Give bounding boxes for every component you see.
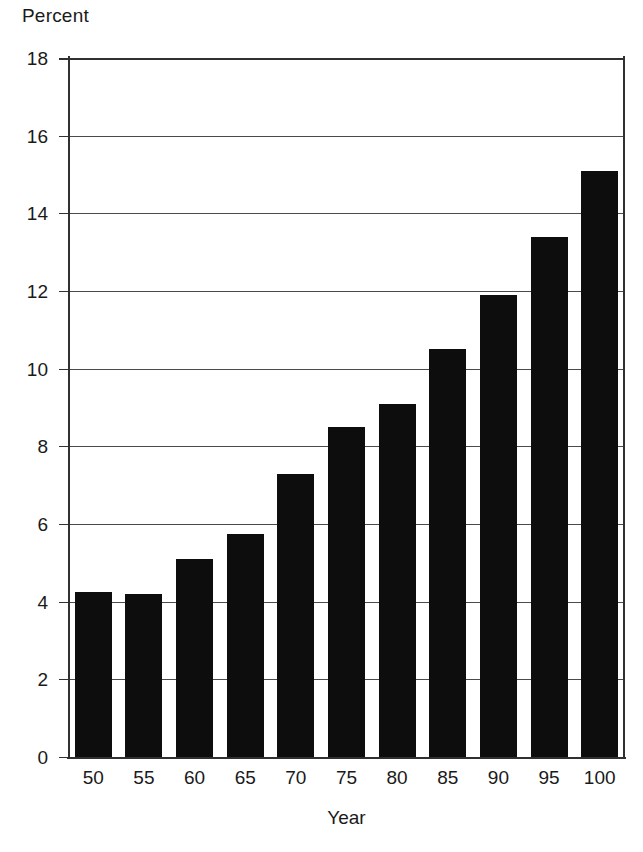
y-axis-tick-label: 18 bbox=[2, 49, 48, 68]
bar bbox=[75, 592, 112, 757]
gridline bbox=[68, 213, 625, 214]
x-axis-tick-label: 75 bbox=[321, 766, 372, 790]
y-axis-tick-label: 4 bbox=[2, 593, 48, 612]
bar bbox=[429, 349, 466, 757]
y-axis-tick bbox=[59, 524, 68, 525]
y-axis-tick-label: 14 bbox=[2, 204, 48, 223]
x-axis-tick-label: 50 bbox=[68, 766, 119, 790]
y-axis-tick-label: 2 bbox=[2, 670, 48, 689]
y-axis-tick-label: 10 bbox=[2, 360, 48, 379]
bar bbox=[277, 474, 314, 757]
x-axis-tick-labels: 50556065707580859095100 bbox=[68, 766, 625, 794]
x-axis-title: Year bbox=[68, 806, 625, 830]
y-axis-line bbox=[68, 56, 70, 759]
y-axis-tick-label: 0 bbox=[2, 748, 48, 767]
y-axis-tick-label: 16 bbox=[2, 127, 48, 146]
bar bbox=[480, 295, 517, 757]
bar bbox=[531, 237, 568, 757]
x-axis-tick-label: 100 bbox=[574, 766, 625, 790]
y-axis-title: Percent bbox=[22, 4, 89, 28]
gridline bbox=[68, 58, 625, 60]
bar bbox=[176, 559, 213, 757]
x-axis-tick-label: 85 bbox=[422, 766, 473, 790]
plot-area bbox=[68, 58, 625, 757]
x-axis-tick-label: 60 bbox=[169, 766, 220, 790]
y-axis-tick-label: 6 bbox=[2, 515, 48, 534]
y-axis-tick-labels: 181614121086420 bbox=[0, 58, 48, 757]
x-axis-line bbox=[67, 757, 626, 759]
bar bbox=[125, 594, 162, 757]
y-axis-tick bbox=[59, 291, 68, 292]
y-axis-tick bbox=[59, 679, 68, 680]
y-axis-tick-label: 12 bbox=[2, 282, 48, 301]
x-axis-tick-label: 80 bbox=[372, 766, 423, 790]
bar bbox=[227, 534, 264, 757]
gridline bbox=[68, 136, 625, 137]
x-axis-tick-label: 65 bbox=[220, 766, 271, 790]
y-axis-tick bbox=[59, 58, 68, 60]
y-axis-tick bbox=[59, 446, 68, 447]
plot-right-border bbox=[623, 56, 625, 759]
y-axis-tick bbox=[59, 602, 68, 603]
y-axis-tick bbox=[59, 136, 68, 137]
x-axis-tick-label: 70 bbox=[271, 766, 322, 790]
x-axis-tick-label: 55 bbox=[119, 766, 170, 790]
y-axis-tick bbox=[59, 213, 68, 214]
bar bbox=[328, 427, 365, 757]
y-axis-tick bbox=[59, 369, 68, 370]
bar bbox=[379, 404, 416, 757]
y-axis-tick-label: 8 bbox=[2, 437, 48, 456]
bar bbox=[581, 171, 618, 757]
x-axis-tick-label: 95 bbox=[524, 766, 575, 790]
x-axis-tick-label: 90 bbox=[473, 766, 524, 790]
bar-chart-figure: Percent 181614121086420 5055606570758085… bbox=[0, 0, 643, 852]
